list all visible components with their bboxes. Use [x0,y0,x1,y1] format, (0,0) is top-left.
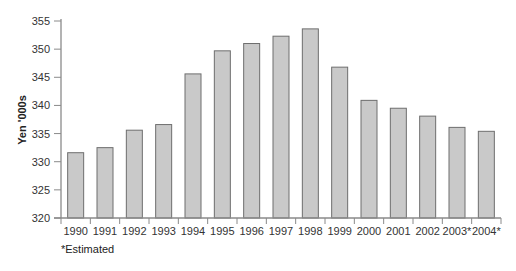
x-tick-label: 1994 [181,225,205,237]
bar-2004 [478,131,494,218]
x-tick-label: 2000 [357,225,381,237]
bar-2000 [361,100,377,218]
bar-1992 [126,130,142,218]
bar-2003 [449,127,465,218]
bar-1993 [156,125,172,218]
bar-1995 [214,51,230,218]
y-tick-label: 350 [32,43,50,55]
y-axis-label: Yen '000s [16,95,28,145]
x-tick-label: 1991 [93,225,117,237]
x-tick-label: 2004* [472,225,501,237]
y-axis: 320325330335340345350355 [32,15,61,224]
y-tick-label: 355 [32,15,50,27]
x-tick-label: 1999 [327,225,351,237]
x-tick-label: 1997 [269,225,293,237]
footnote: *Estimated [61,243,114,255]
bar-1999 [332,67,348,218]
x-tick-label: 2003* [443,225,472,237]
y-tick-label: 330 [32,156,50,168]
y-tick-label: 335 [32,128,50,140]
bar-1996 [244,44,260,218]
bar-chart: 320325330335340345350355 199019911992199… [0,0,516,271]
x-tick-label: 2002 [415,225,439,237]
x-tick-label: 1990 [63,225,87,237]
bars [68,29,495,218]
y-tick-label: 320 [32,212,50,224]
x-tick-label: 1995 [210,225,234,237]
y-tick-label: 340 [32,99,50,111]
bar-1990 [68,153,84,218]
y-tick-label: 325 [32,184,50,196]
bar-2002 [420,116,436,218]
y-tick-label: 345 [32,71,50,83]
x-tick-label: 1992 [122,225,146,237]
x-tick-label: 1996 [239,225,263,237]
bar-1997 [273,36,289,218]
bar-1998 [302,29,318,218]
x-tick-label: 2001 [386,225,410,237]
bar-1994 [185,74,201,218]
x-axis: 1990199119921993199419951996199719981999… [54,218,501,237]
bar-1991 [97,148,113,218]
x-tick-label: 1998 [298,225,322,237]
bar-2001 [390,108,406,218]
x-tick-label: 1993 [151,225,175,237]
